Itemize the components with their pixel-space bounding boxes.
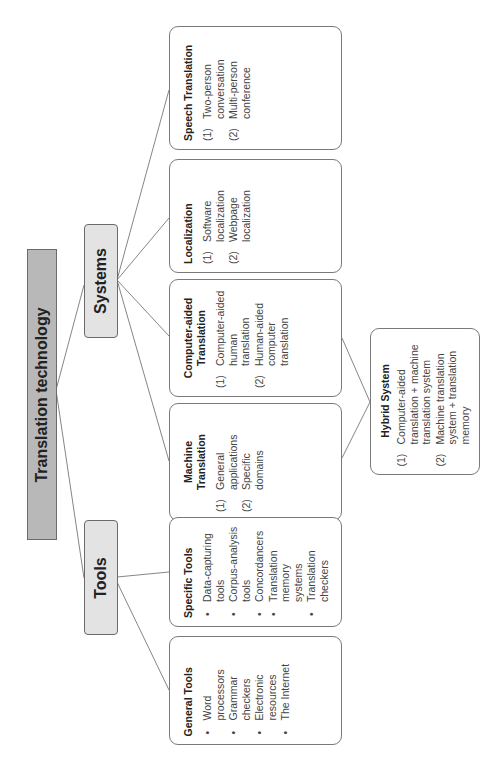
list-item: (1)General applications	[213, 412, 238, 512]
branch-tools: Tools	[84, 520, 118, 635]
list-item: (1)Computer-aided human translation	[213, 288, 251, 388]
card-specific-tools: Specific Tools •Data-capturing tools •Co…	[169, 517, 342, 627]
line-machine-hybrid	[342, 402, 370, 458]
list-item: (2)Machine translation system + translat…	[434, 335, 472, 466]
list-item: (2)Human-aided computer translation	[252, 288, 290, 388]
line-systems-localization	[117, 218, 169, 280]
bullet-icon: •	[200, 720, 225, 736]
card-title: Hybrid System	[379, 335, 392, 466]
card-title: General Tools	[181, 645, 194, 736]
line-cat-hybrid	[342, 338, 370, 402]
root-label: Translation technology	[33, 307, 51, 482]
bullet-icon: •	[252, 602, 265, 618]
branch-systems-label: Systems	[92, 248, 110, 314]
list-item: (2)Multi-person conference	[226, 35, 251, 141]
list-item: •Corpus-analysis tools	[226, 526, 251, 618]
item-list: (1)Computer-aided human translation (2)H…	[213, 288, 289, 388]
list-item: •Grammar checkers	[226, 645, 251, 736]
list-item: (1)Two-person conversation	[200, 35, 225, 141]
line-root-tools	[56, 390, 84, 578]
card-title: Computer-aided Translation	[181, 288, 207, 388]
line-tools-specific	[117, 572, 169, 577]
bullet-list: •Data-capturing tools •Corpus-analysis t…	[200, 526, 329, 618]
card-hybrid-system: Hybrid System (1)Computer-aided translat…	[370, 328, 480, 475]
card-machine-translation: Machine Translation (1)General applicati…	[169, 403, 342, 521]
bullet-icon: •	[266, 602, 304, 618]
branch-tools-label: Tools	[92, 557, 110, 598]
card-localization: Localization (1)Software localization (2…	[169, 159, 342, 273]
item-list: (1)General applications (2)Specific doma…	[213, 412, 264, 512]
list-item: (2)Webpage localization	[226, 168, 251, 264]
card-general-tools: General Tools •Word processors •Grammar …	[169, 636, 342, 745]
bullet-icon: •	[226, 720, 251, 736]
list-item: •Translation checkers	[304, 526, 329, 618]
line-tools-general	[117, 582, 169, 690]
list-item: •Data-capturing tools	[200, 526, 225, 618]
bullet-icon: •	[278, 720, 291, 736]
root-node: Translation technology	[27, 249, 57, 540]
card-computer-aided-translation: Computer-aided Translation (1)Computer-a…	[169, 279, 342, 397]
list-item: •The Internet	[278, 645, 291, 736]
branch-systems: Systems	[84, 224, 118, 338]
card-title: Localization	[181, 168, 194, 264]
list-item: •Word processors	[200, 645, 225, 736]
card-title: Speech Translation	[181, 35, 194, 141]
item-list: (1)Two-person conversation (2)Multi-pers…	[200, 35, 251, 141]
list-item: •Electronic resources	[252, 645, 277, 736]
bullet-icon: •	[304, 602, 329, 618]
list-item: (1)Computer-aided translation + machine …	[395, 335, 433, 466]
list-item: •Concordancers	[252, 526, 265, 618]
bullet-icon: •	[252, 720, 277, 736]
bullet-list: •Word processors •Grammar checkers •Elec…	[200, 645, 291, 736]
card-speech-translation: Speech Translation (1)Two-person convers…	[169, 26, 342, 150]
line-systems-machine	[117, 280, 169, 461]
bullet-icon: •	[200, 602, 225, 618]
list-item: (1)Software localization	[200, 168, 225, 264]
card-title: Specific Tools	[181, 526, 194, 618]
item-list: (1)Software localization (2)Webpage loca…	[200, 168, 251, 264]
line-root-systems	[56, 285, 84, 390]
item-list: (1)Computer-aided translation + machine …	[395, 335, 471, 466]
list-item: (2)Specific domains	[239, 412, 264, 512]
list-item: •Translation memory systems	[266, 526, 304, 618]
bullet-icon: •	[226, 602, 251, 618]
card-title: Machine Translation	[181, 412, 207, 512]
line-systems-speech	[117, 90, 169, 280]
